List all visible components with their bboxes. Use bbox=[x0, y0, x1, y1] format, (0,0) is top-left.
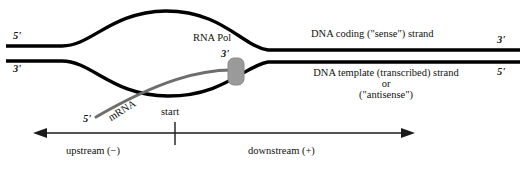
right-bottom-prime-label: 5' bbox=[497, 66, 505, 77]
template-strand-label: DNA template (transcribed) strand or ("a… bbox=[286, 67, 486, 100]
left-top-prime-label: 5' bbox=[13, 30, 21, 41]
right-top-prime-label: 3' bbox=[497, 34, 505, 45]
transcription-diagram: 5' 3' 3' 5' DNA coding ("sense") strand … bbox=[0, 0, 526, 169]
downstream-label: downstream (+) bbox=[248, 145, 315, 156]
coding-strand-label: DNA coding ("sense") strand bbox=[311, 28, 434, 39]
left-bottom-prime-label: 3' bbox=[13, 63, 21, 74]
template-strand-label-line3: ("antisense") bbox=[286, 89, 486, 100]
rna-polymerase-icon bbox=[228, 58, 244, 85]
dna-coding-strand bbox=[6, 11, 520, 50]
template-strand-label-line1: DNA template (transcribed) strand bbox=[286, 67, 486, 78]
upstream-label: upstream (−) bbox=[66, 145, 120, 156]
polymerase-prime-label: 3' bbox=[221, 48, 229, 59]
template-strand-label-line2: or bbox=[286, 78, 486, 89]
start-label: start bbox=[161, 106, 179, 117]
mrna-prime-label: 5' bbox=[83, 113, 91, 124]
rna-polymerase-label: RNA Pol bbox=[193, 32, 231, 43]
axis-left-arrowhead-icon bbox=[33, 128, 47, 138]
axis-right-arrowhead-icon bbox=[401, 128, 415, 138]
